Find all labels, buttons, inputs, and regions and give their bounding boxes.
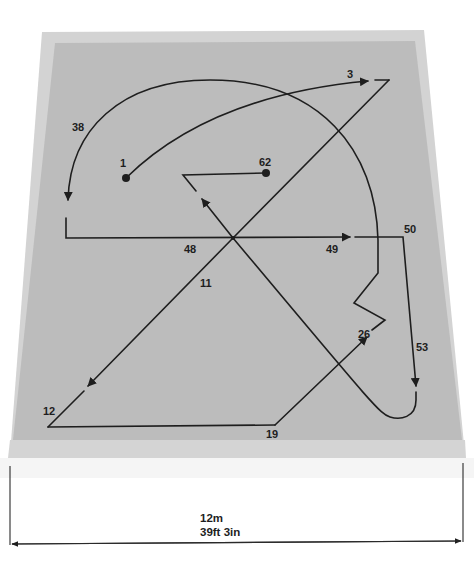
point-62-dot <box>262 169 270 177</box>
dimension-imperial: 39ft 3in <box>200 525 240 539</box>
label-point-38: 38 <box>72 122 84 133</box>
point-1-dot <box>122 174 130 182</box>
label-point-50: 50 <box>404 224 416 235</box>
diagram-canvas <box>0 0 474 562</box>
label-point-12: 12 <box>43 406 55 417</box>
dimension-metric: 12m <box>200 511 223 525</box>
label-point-3: 3 <box>347 69 353 80</box>
label-point-1: 1 <box>120 158 126 169</box>
mat-surface <box>13 41 462 440</box>
mat-front-edge <box>8 440 466 458</box>
center-crossing <box>231 236 235 240</box>
label-point-62: 62 <box>259 157 271 168</box>
label-point-48: 48 <box>184 244 196 255</box>
floor-pattern-diagram: 1 3 38 62 48 49 50 11 26 53 12 19 12m 39… <box>0 0 474 562</box>
label-point-11: 11 <box>200 278 212 289</box>
label-point-49: 49 <box>326 244 338 255</box>
label-point-26: 26 <box>358 329 370 340</box>
label-point-19: 19 <box>266 429 278 440</box>
label-point-53: 53 <box>416 342 428 353</box>
